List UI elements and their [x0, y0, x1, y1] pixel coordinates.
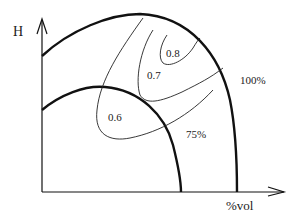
curve-100-percent: [42, 14, 237, 192]
y-axis-label: H: [13, 24, 23, 39]
contour-label-0-6: 0.6: [108, 111, 122, 123]
contour-label-0-8: 0.8: [166, 47, 180, 59]
curve-100-label: 100%: [240, 74, 266, 86]
curve-75-percent: [42, 87, 181, 192]
efficiency-diagram: H %vol 100% 75% 0.6 0.7 0.8: [0, 0, 293, 215]
contour-label-0-7: 0.7: [147, 69, 161, 81]
curve-75-label: 75%: [186, 128, 206, 140]
axes: [37, 19, 284, 196]
contour-0-7: [138, 30, 223, 101]
x-axis-label: %vol: [226, 198, 254, 213]
